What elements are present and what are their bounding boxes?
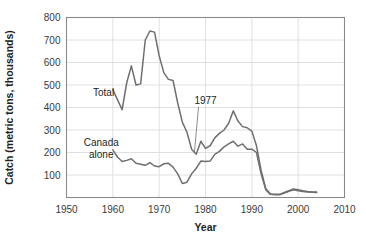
series-label-total: Total — [93, 87, 114, 98]
x-tick-label: 1950 — [55, 204, 78, 215]
x-tick-label: 1980 — [194, 204, 217, 215]
x-tick-label: 2010 — [333, 204, 356, 215]
annotation-label-1977: 1977 — [194, 95, 217, 106]
y-tick-label: 300 — [44, 125, 61, 136]
y-tick-label: 800 — [44, 12, 61, 23]
x-tick-label: 1990 — [241, 204, 264, 215]
x-tick-label: 1970 — [148, 204, 171, 215]
chart-figure: 100200300400500600700800 195019601970198… — [0, 0, 366, 240]
series-label-canada-alone: Canada — [84, 137, 119, 148]
y-tick-label: 500 — [44, 80, 61, 91]
y-tick-label: 700 — [44, 35, 61, 46]
x-axis-title: Year — [194, 221, 216, 233]
y-tick-label: 100 — [44, 170, 61, 181]
y-tick-label: 400 — [44, 102, 61, 113]
catch-line-chart: 100200300400500600700800 195019601970198… — [0, 0, 366, 240]
series-label-canada-alone-line2: alone — [89, 149, 114, 160]
y-tick-label: 600 — [44, 57, 61, 68]
y-tick-label: 200 — [44, 147, 61, 158]
y-axis-title: Catch (metric tons, thousands) — [3, 30, 15, 185]
x-tick-label: 1960 — [102, 204, 125, 215]
x-tick-label: 2000 — [287, 204, 310, 215]
